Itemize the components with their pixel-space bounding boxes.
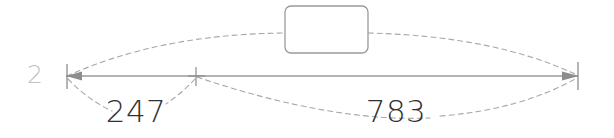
upper-dashed-arc-right xyxy=(368,33,577,75)
dimension-value-247: 247 xyxy=(106,93,167,129)
dimension-diagram: 2 247 783 xyxy=(0,0,614,138)
center-tick-group xyxy=(188,67,205,86)
upper-dashed-arc-left xyxy=(67,33,285,76)
row-label: 2 xyxy=(27,60,43,89)
right-arrowhead-icon xyxy=(562,72,579,81)
note-box[interactable] xyxy=(285,6,368,53)
leader-line-247-right xyxy=(166,79,195,104)
technical-drawing-canvas: 2 247 783 xyxy=(0,0,614,138)
lower-dashed-arc-tail xyxy=(440,78,577,116)
right-terminator-group xyxy=(562,62,579,90)
dimension-value-783: 783 xyxy=(366,93,427,129)
